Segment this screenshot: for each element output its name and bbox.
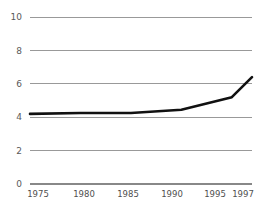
- line-chart: 0 2 4 6 8 10 1975 1980 1985 1990 1995 19…: [0, 0, 268, 213]
- data-series-group: [30, 77, 252, 114]
- data-line-series-1: [30, 77, 252, 114]
- plot-area: [0, 0, 268, 213]
